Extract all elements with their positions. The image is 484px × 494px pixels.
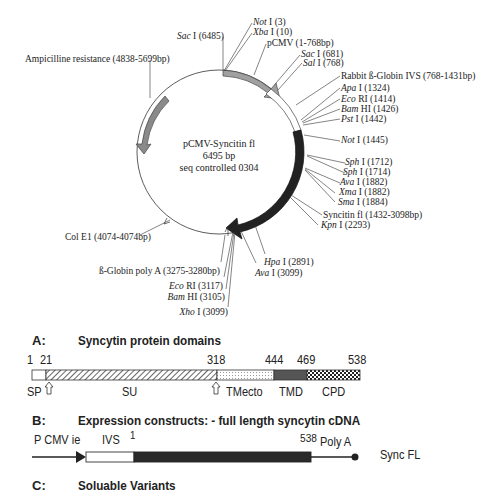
pos-21: 21 (40, 353, 52, 367)
construct-diagram (0, 448, 484, 468)
plasmid-map: pCMV-Syncitin fl 6495 bp seq controlled … (0, 0, 484, 320)
plasmid-note: seq controlled 0304 (180, 162, 259, 173)
site-smai-1884: Sma I (1884) (338, 197, 388, 208)
domain-su (46, 370, 217, 380)
domain-label-tmd: TMD (279, 385, 303, 399)
cleavage-arrow-icon (45, 382, 53, 394)
feature-cole1: Col E1 (4074-4074bp) (65, 232, 151, 243)
intron-label: IVS (102, 433, 120, 447)
section-c-letter: C: (32, 478, 46, 493)
section-b-title: Expression constructs: - full length syn… (78, 413, 360, 428)
domain-label-sp: SP (27, 385, 42, 399)
domain-label-cpd: CPD (322, 385, 345, 399)
site-apai-1324: Apa I (1324) (340, 83, 390, 94)
section-b-letter: B: (32, 413, 46, 428)
plasmid-size: 6495 bp (203, 150, 236, 161)
domain-sp (32, 370, 46, 380)
section-a-letter: A: (32, 333, 46, 348)
syncytin-block (134, 452, 311, 462)
domain-label-su: SU (122, 385, 137, 399)
ivs-block (86, 452, 134, 462)
site-saci-6485: Sac I (6485) (177, 31, 224, 42)
site-avai-3099: Ava I (3099) (254, 268, 303, 279)
pos-318: 318 (207, 353, 225, 367)
plasmid-name: pCMV-Syncitin fl (183, 138, 255, 149)
arrowhead-icon (76, 451, 86, 463)
site-bamhi-3105: Bam HI (3105) (167, 292, 225, 303)
domain-tmd (274, 370, 307, 380)
pos-538: 538 (348, 353, 366, 367)
domain-cpd (307, 370, 360, 380)
domain-label-tmecto: TMecto (226, 385, 263, 399)
pos-1: 1 (27, 353, 33, 367)
pos-469: 469 (297, 353, 315, 367)
pos-444: 444 (265, 353, 283, 367)
site-psti-1442: Pst I (1442) (340, 114, 386, 125)
site-xbai-10: Xba I (10) (252, 27, 292, 38)
cleavage-arrow-icon (212, 382, 220, 394)
site-noti-1445: Not I (1445) (340, 135, 388, 146)
feature-ampicillin: Ampicilline resistance (4838-5699bp) (25, 54, 170, 65)
feature-ivs: Rabbit ß-Globin IVS (768-1431bp) (341, 71, 475, 82)
domain-tmecto (217, 370, 274, 380)
site-ecori-3117: Eco RI (3117) (168, 281, 223, 292)
section-a-title: Syncytin protein domains (78, 333, 221, 348)
feature-pcmv: pCMV (1-768bp) (267, 38, 334, 49)
site-kpni-2293: Kpn I (2293) (320, 220, 370, 231)
ivs-feature (266, 89, 301, 132)
site-xhoi-3099: Xho I (3099) (178, 307, 228, 318)
end-label: 538 (300, 432, 317, 444)
polya-dot-icon (352, 454, 359, 461)
site-sali-768: Sal I (768) (303, 58, 344, 69)
site-hpai-2891: Hpa I (2891) (263, 257, 314, 268)
start-label: 1 (130, 429, 135, 441)
section-c-title: Soluable Variants (78, 478, 176, 493)
promoter-label: P CMV ie (34, 433, 80, 447)
polya-label: Poly A (320, 435, 351, 449)
feature-polya: ß-Globin poly A (3275-3280bp) (99, 266, 220, 277)
